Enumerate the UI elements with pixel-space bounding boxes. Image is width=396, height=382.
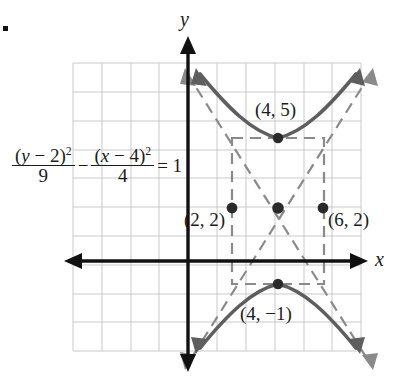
term-1-offset: − 2): [30, 145, 66, 166]
point-top-vertex: [273, 133, 283, 143]
graph-canvas: [0, 0, 396, 382]
equation-term-2: (x − 4)2 4: [91, 146, 154, 185]
equation-term-2-numerator: (x − 4)2: [91, 146, 154, 165]
label-right-co-vertex: (6, 2): [328, 209, 369, 231]
exponent-2: 2: [145, 145, 151, 158]
term-2-offset: − 4): [109, 145, 145, 166]
variable-y: y: [21, 145, 29, 166]
exponent-1: 2: [66, 145, 72, 158]
equation-term-2-denominator: 4: [91, 165, 154, 185]
point-center: [272, 202, 284, 214]
point-right-co-vertex: [318, 203, 329, 214]
point-left-co-vertex: [227, 203, 238, 214]
equation-label: (y − 2)2 9 − (x − 4)2 4 = 1: [12, 146, 185, 185]
variable-x: x: [101, 145, 109, 166]
label-top-vertex: (4, 5): [255, 99, 296, 121]
equation-equals: = 1: [154, 156, 185, 175]
marked-points: [227, 133, 329, 289]
hyperbola-figure: y x (4, 5) (4, −1) (2, 2) (6, 2) (y − 2)…: [0, 0, 396, 382]
x-axis-label: x: [375, 248, 384, 271]
equation-term-1: (y − 2)2 9: [12, 146, 75, 185]
equation-term-1-numerator: (y − 2)2: [12, 146, 75, 165]
equation-term-1-denominator: 9: [12, 165, 75, 185]
y-axis-label: y: [180, 8, 189, 31]
label-bottom-vertex: (4, −1): [240, 303, 292, 325]
label-left-co-vertex: (2, 2): [184, 209, 225, 231]
point-bottom-vertex: [273, 279, 283, 289]
equation-operator: −: [75, 156, 92, 175]
